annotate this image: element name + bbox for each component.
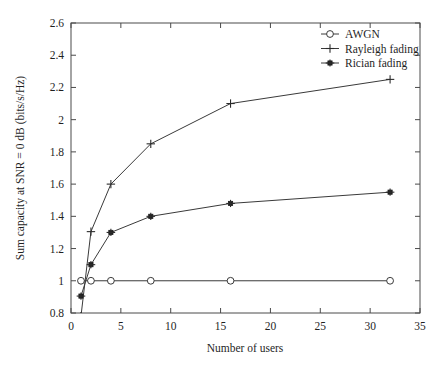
x-tick-label-25: 25 [315,320,327,332]
data-point-16 [227,277,234,284]
y-tick-label-0.8: 0.8 [50,307,65,319]
y-tick-label-2.2: 2.2 [50,81,65,93]
y-tick-label-1.4: 1.4 [50,210,65,222]
capacity-vs-users-line-chart: 05101520253035 0.811.21.41.61.822.22.42.… [0,0,448,370]
chart-background [0,0,448,370]
data-point-4 [107,277,114,284]
x-tick-label-0: 0 [68,320,74,332]
y-axis-title: Sum capacity at SNR = 0 dB (bits/s/Hz) [14,76,27,261]
data-point-2 [88,277,95,284]
y-tick-label-2.4: 2.4 [50,49,65,61]
data-point-1 [78,277,85,284]
y-tick-label-1.8: 1.8 [50,146,65,158]
legend-label: AWGN [345,28,381,40]
x-tick-label-10: 10 [165,320,177,332]
y-tick-label-2: 2 [58,114,64,126]
x-tick-label-35: 35 [414,320,426,332]
chart-figure: 05101520253035 0.811.21.41.61.822.22.42.… [0,0,448,370]
data-point-32 [387,277,394,284]
x-tick-label-20: 20 [265,320,277,332]
legend-label: Rician fading [345,57,408,70]
y-tick-label-1.2: 1.2 [50,243,65,255]
y-tick-label-1.6: 1.6 [50,178,65,190]
x-tick-label-5: 5 [118,320,124,332]
data-point-8 [147,277,154,284]
x-tick-label-15: 15 [215,320,227,332]
y-tick-label-1: 1 [58,275,64,287]
x-tick-label-30: 30 [364,320,376,332]
y-tick-label-2.6: 2.6 [50,17,65,29]
legend-label: Rayleigh fading [345,43,419,56]
x-axis-title: Number of users [207,342,284,354]
legend-marker-circle-open [327,31,334,38]
